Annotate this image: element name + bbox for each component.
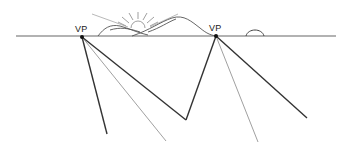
vp2-dot [214,34,218,38]
vp2-lines [216,36,307,142]
mountains [98,17,216,36]
vp2-label: VP [209,23,222,33]
perspective-diagram [0,0,352,148]
vp1-dot [80,35,84,39]
vp1-lines [82,37,186,141]
sun-icon [92,12,178,28]
vp1-label: VP [75,24,88,34]
v-line [186,36,216,120]
small-hill [246,30,264,36]
